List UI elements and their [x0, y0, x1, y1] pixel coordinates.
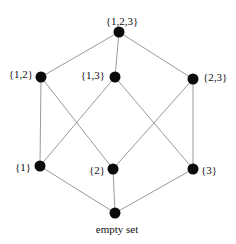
- node-n1: [35, 161, 46, 172]
- node-n13: [110, 72, 121, 83]
- node-n0: [110, 208, 121, 219]
- edge-n123-n13: [115, 32, 119, 77]
- node-n12: [36, 72, 47, 83]
- node-label: {1,2,3}: [106, 15, 139, 27]
- node-label: {1}: [15, 161, 31, 173]
- node-label: {2}: [89, 164, 105, 176]
- node-label: {3}: [201, 164, 217, 176]
- edge-n12-n2: [41, 77, 113, 169]
- node-n2: [108, 164, 119, 175]
- node-n123: [114, 27, 125, 38]
- edge-n2-n0: [113, 169, 115, 213]
- node-n23: [188, 74, 199, 85]
- edge-n12-n1: [40, 77, 41, 166]
- node-label: {2,3}: [203, 71, 227, 83]
- node-label: empty set: [96, 223, 138, 235]
- edges: [40, 32, 193, 213]
- node-n3: [188, 164, 199, 175]
- hasse-diagram: {1,2,3}{1,2}{1,3}{2,3}{1}{2}{3}empty set: [0, 0, 236, 244]
- node-label: {1,2}: [9, 68, 33, 80]
- edge-n123-n23: [119, 32, 193, 79]
- node-label: {1,3}: [81, 69, 105, 81]
- edge-n3-n0: [115, 169, 193, 213]
